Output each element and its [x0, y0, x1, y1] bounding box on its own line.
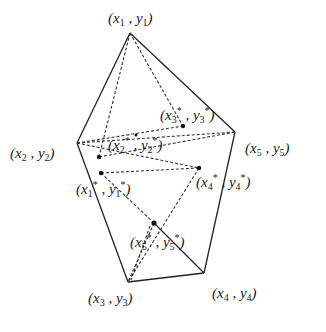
- edge-p2-p3: [77, 143, 128, 282]
- dot-s1: [99, 171, 103, 175]
- label-s1: (x1* , y1*): [76, 179, 131, 199]
- label-p4: (x4 , y4): [212, 285, 257, 303]
- label-s2: (x2* , y2*): [108, 135, 163, 155]
- label-p5: (x5 , y5): [245, 140, 290, 158]
- vertex-labels: (x1 , y1) (x2 , y2) (x5 , y5) (x3 , y3) …: [10, 10, 290, 308]
- dot-s4: [197, 166, 201, 170]
- dot-s3: [181, 124, 185, 128]
- dash-s4-p3: [128, 168, 199, 282]
- label-p2: (x2 , y2): [10, 145, 55, 163]
- edge-p4-p5: [204, 132, 235, 273]
- label-s5: (x5* , y5*): [130, 232, 185, 252]
- edge-p1-p2: [77, 33, 130, 143]
- dash-p1-s3: [130, 33, 183, 126]
- diagram-canvas: (x1 , y1) (x2 , y2) (x5 , y5) (x3 , y3) …: [0, 0, 326, 332]
- label-p1: (x1 , y1): [108, 10, 153, 28]
- starred-labels: (x3* , y3*) (x2* , y2*) (x1* , y1*) (x4*…: [76, 105, 251, 252]
- label-p3: (x3 , y3): [88, 290, 133, 308]
- label-s3: (x3* , y3*): [160, 105, 215, 125]
- dash-s1-s4: [101, 168, 199, 173]
- pentagon-diagram: (x1 , y1) (x2 , y2) (x5 , y5) (x3 , y3) …: [0, 0, 326, 332]
- edge-p3-p4: [128, 273, 204, 282]
- dot-s2: [97, 155, 101, 159]
- label-s4: (x4* , y4*): [196, 172, 251, 192]
- dot-s5: [151, 220, 156, 225]
